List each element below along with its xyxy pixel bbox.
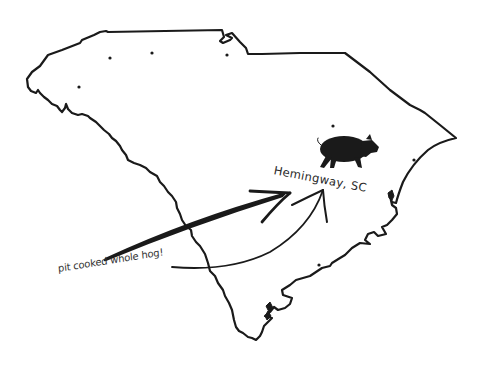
- state-outline: [27, 30, 456, 340]
- pig-icon: [317, 134, 379, 168]
- map-illustration: Hemingway, SC pit cooked whole hog!: [0, 0, 482, 366]
- state-map-svg: [0, 0, 482, 366]
- city-dot: [317, 263, 320, 266]
- city-dot: [108, 56, 111, 59]
- coast-inlet: [388, 190, 394, 200]
- arrow-thick: [105, 191, 290, 260]
- city-dot: [150, 51, 153, 54]
- city-dot: [225, 53, 228, 56]
- city-dot: [77, 85, 80, 88]
- arrow-curved: [172, 190, 327, 268]
- city-dot: [331, 124, 334, 127]
- city-dot: [412, 158, 415, 161]
